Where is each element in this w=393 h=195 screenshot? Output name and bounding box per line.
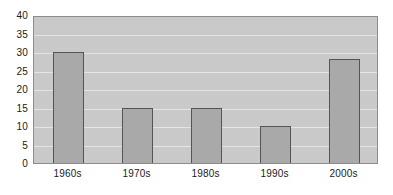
y-axis-tick-label: 30 — [16, 48, 28, 58]
x-axis-tick-label: 1960s — [53, 168, 81, 180]
x-axis: 1960s1970s1980s1990s2000s — [33, 168, 378, 188]
x-axis-tick-label: 1980s — [191, 168, 219, 180]
y-axis: 0510152025303540 — [0, 0, 31, 195]
bar — [260, 126, 291, 163]
y-axis-tick-label: 25 — [16, 67, 28, 77]
plot-area — [33, 16, 378, 164]
bar-chart: 0510152025303540 1960s1970s1980s1990s200… — [0, 0, 393, 195]
y-axis-tick-label: 35 — [16, 30, 28, 40]
y-axis-tick-label: 5 — [22, 141, 28, 151]
bar — [122, 108, 153, 164]
bar — [329, 59, 360, 163]
y-axis-tick-label: 40 — [16, 11, 28, 21]
y-axis-tick-label: 20 — [16, 85, 28, 95]
bar — [191, 108, 222, 164]
y-axis-tick-label: 10 — [16, 122, 28, 132]
y-axis-tick-label: 15 — [16, 104, 28, 114]
bars-group — [34, 17, 377, 163]
x-axis-tick-label: 1990s — [260, 168, 288, 180]
x-axis-tick-label: 1970s — [122, 168, 150, 180]
y-axis-tick-label: 0 — [22, 159, 28, 169]
bar — [53, 52, 84, 163]
x-axis-tick-label: 2000s — [329, 168, 357, 180]
